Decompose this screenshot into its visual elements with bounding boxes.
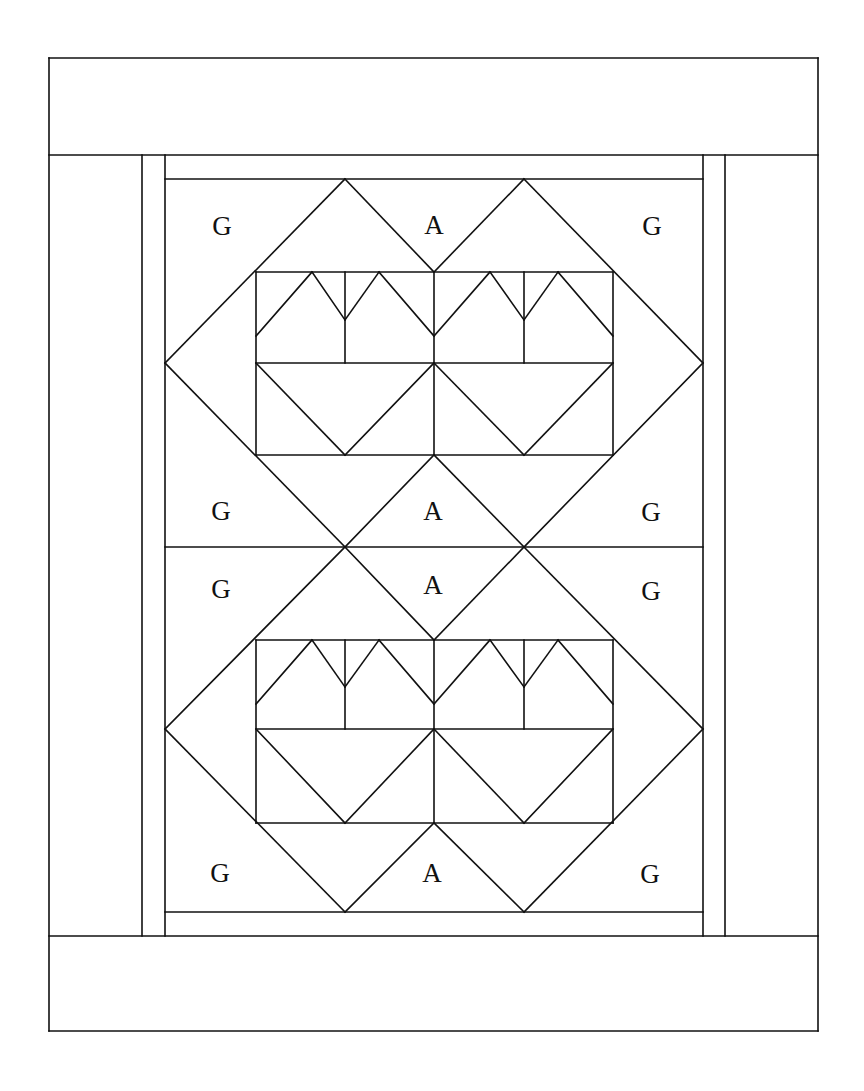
heart-left-point bbox=[256, 729, 345, 823]
heart-right-lobes bbox=[524, 272, 558, 320]
heart-right-lobes bbox=[558, 272, 613, 336]
heart-left-lobes bbox=[312, 272, 345, 320]
piece-label-g: G bbox=[640, 859, 660, 889]
diamond-outline bbox=[345, 455, 434, 547]
piece-label-a: A bbox=[424, 210, 444, 240]
diamond-outline bbox=[345, 179, 434, 272]
piece-label-g: G bbox=[642, 211, 662, 241]
heart-left-point bbox=[345, 729, 434, 823]
heart-left-lobes bbox=[256, 640, 312, 704]
heart-blocks bbox=[165, 179, 703, 912]
heart-right-lobes bbox=[490, 640, 524, 687]
heart-left-point bbox=[256, 363, 345, 455]
diamond-outline bbox=[165, 179, 345, 363]
heart-left-lobes bbox=[345, 272, 379, 320]
heart-right-lobes bbox=[434, 640, 490, 704]
heart-left-lobes bbox=[379, 640, 434, 704]
piece-label-a: A bbox=[422, 858, 442, 888]
piece-label-g: G bbox=[211, 496, 231, 526]
piece-label-g: G bbox=[211, 574, 231, 604]
heart-right-lobes bbox=[490, 272, 524, 320]
heart-left-lobes bbox=[379, 272, 434, 336]
piece-label-a: A bbox=[423, 570, 443, 600]
heart-left-lobes bbox=[345, 640, 379, 687]
diamond-outline bbox=[434, 823, 524, 912]
quilt-diagram: GAGGAGGAGGAG bbox=[0, 0, 864, 1091]
diamond-outline bbox=[434, 179, 524, 272]
heart-left-lobes bbox=[256, 272, 312, 336]
diamond-outline bbox=[434, 455, 524, 547]
diamond-outline bbox=[345, 823, 434, 912]
heart-right-point bbox=[524, 729, 613, 823]
diamond-outline bbox=[434, 547, 524, 640]
piece-label-g: G bbox=[641, 497, 661, 527]
diamond-outline bbox=[165, 729, 345, 912]
heart-right-lobes bbox=[524, 640, 558, 687]
heart-left-point bbox=[345, 363, 434, 455]
piece-label-g: G bbox=[210, 858, 230, 888]
heart-right-point bbox=[434, 729, 524, 823]
piece-label-g: G bbox=[212, 211, 232, 241]
heart-right-lobes bbox=[558, 640, 613, 704]
piece-label-a: A bbox=[423, 496, 443, 526]
heart-right-lobes bbox=[434, 272, 490, 336]
heart-right-point bbox=[524, 363, 613, 455]
diamond-outline bbox=[165, 547, 345, 729]
heart-right-point bbox=[434, 363, 524, 455]
diamond-outline bbox=[345, 547, 434, 640]
piece-label-g: G bbox=[641, 576, 661, 606]
heart-left-lobes bbox=[312, 640, 345, 687]
